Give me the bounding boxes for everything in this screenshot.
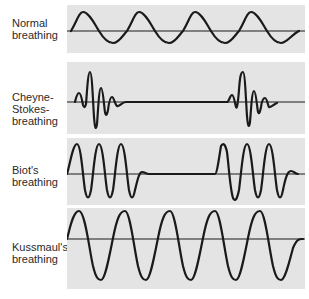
label-line: Stokes-: [12, 103, 58, 115]
label-line: breathing: [12, 29, 58, 41]
waveform-kussmaul: [67, 208, 305, 289]
label-line: breathing: [12, 176, 58, 188]
label-line: breathing: [12, 253, 68, 265]
trace-kussmauls-breathing: [67, 208, 305, 289]
trace-cheyne-stokes-breathing: [67, 62, 305, 134]
waveform-cheyne-stokes: [67, 62, 305, 134]
waveform-normal: [67, 5, 305, 53]
waveform-biot: [67, 138, 305, 205]
label-cheyne-stokes-breathing: Cheyne- Stokes- breathing: [12, 91, 58, 127]
label-line: Cheyne-: [12, 91, 58, 103]
label-line: Normal: [12, 17, 58, 29]
label-line: Kussmaul's: [12, 241, 68, 253]
label-biots-breathing: Biot's breathing: [12, 164, 58, 188]
label-line: Biot's: [12, 164, 58, 176]
label-kussmauls-breathing: Kussmaul's breathing: [12, 241, 68, 265]
label-line: breathing: [12, 115, 58, 127]
trace-biots-breathing: [67, 138, 305, 205]
label-normal-breathing: Normal breathing: [12, 17, 58, 41]
trace-normal-breathing: [67, 5, 305, 53]
